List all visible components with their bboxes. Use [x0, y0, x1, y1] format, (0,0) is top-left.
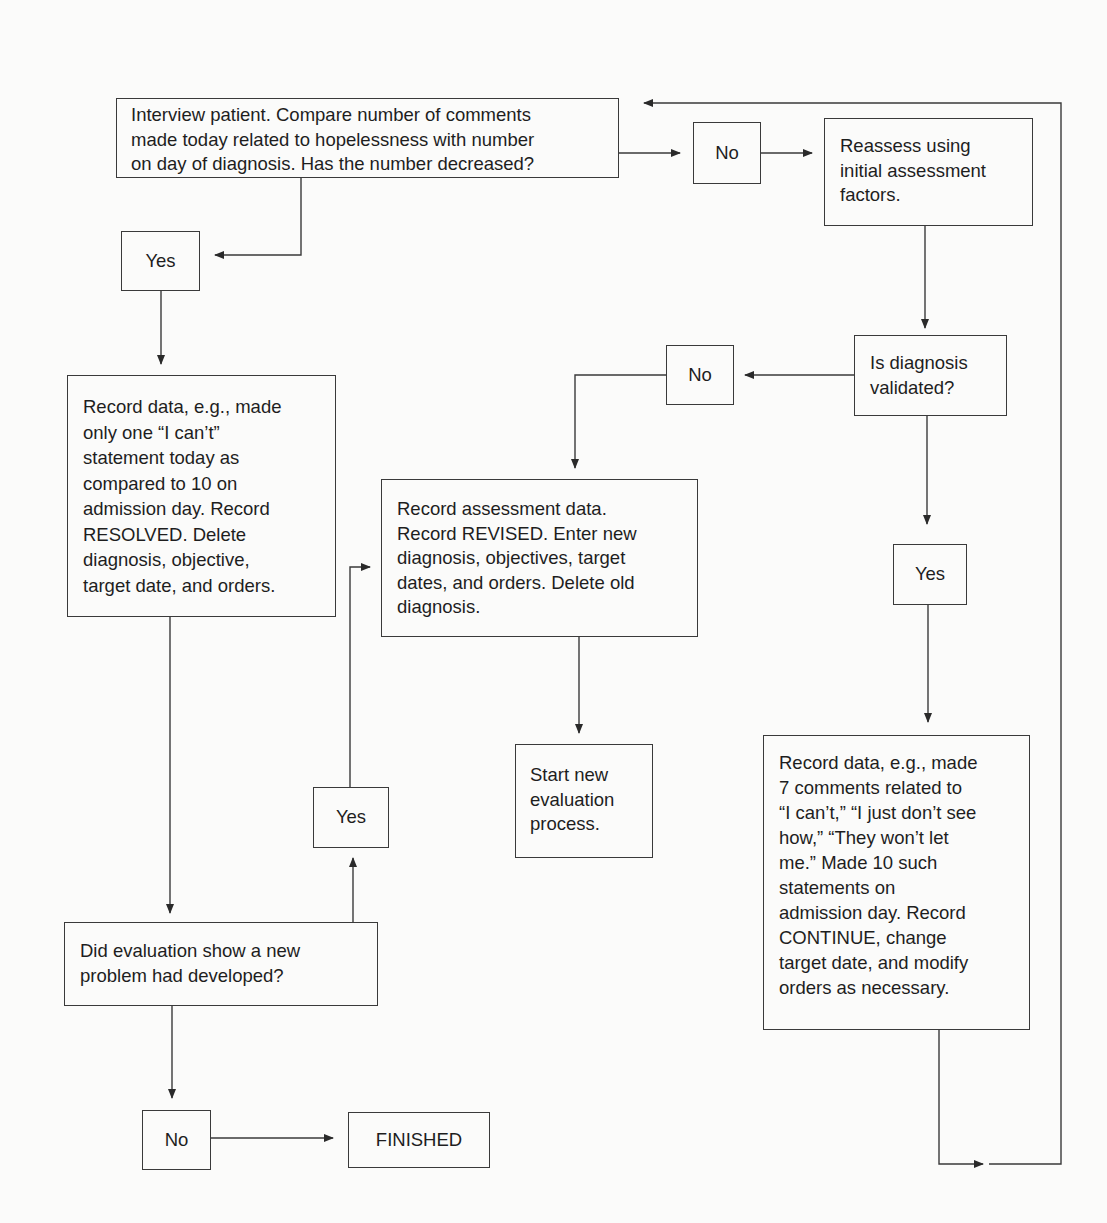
node-text-line: Record REVISED. Enter new: [397, 522, 697, 547]
node-text-line: statements on: [779, 875, 1029, 900]
edge-record-continue-to-loop: [939, 1029, 983, 1164]
node-no-new-problem: No: [142, 1110, 211, 1170]
node-text-line: target date, and modify: [779, 950, 1029, 975]
node-text-line: made today related to hopelessness with …: [131, 128, 618, 153]
node-yes-validated: Yes: [893, 544, 967, 605]
node-text-line: Record data, e.g., made: [83, 394, 335, 420]
node-no-validated: No: [666, 345, 734, 405]
node-label: No: [165, 1128, 189, 1153]
node-new-problem: Did evaluation show a new problem had de…: [64, 922, 378, 1006]
node-interview: Interview patient. Compare number of com…: [116, 98, 619, 178]
node-label: Yes: [336, 805, 366, 830]
node-text-line: admission day. Record: [779, 900, 1029, 925]
node-text-line: diagnosis, objectives, target: [397, 546, 697, 571]
node-label: Yes: [145, 249, 175, 274]
node-text-line: target date, and orders.: [83, 573, 335, 599]
node-text-line: CONTINUE, change: [779, 925, 1029, 950]
node-text-line: admission day. Record: [83, 496, 335, 522]
node-text-line: Record assessment data.: [397, 497, 697, 522]
node-text-line: compared to 10 on: [83, 471, 335, 497]
node-text-line: problem had developed?: [80, 964, 377, 989]
node-text-line: evaluation: [530, 788, 652, 813]
node-text-line: Did evaluation show a new: [80, 939, 377, 964]
node-text-line: diagnosis.: [397, 595, 697, 620]
node-text-line: process.: [530, 812, 652, 837]
node-yes-new-problem: Yes: [313, 787, 389, 848]
node-yes-decreased: Yes: [121, 231, 200, 291]
node-validated: Is diagnosis validated?: [854, 335, 1007, 416]
node-label: Yes: [915, 562, 945, 587]
node-text-line: me.” Made 10 such: [779, 850, 1029, 875]
node-reassess: Reassess using initial assessment factor…: [824, 118, 1033, 226]
edge-yes-to-record-revised: [350, 567, 370, 787]
node-start-new-evaluation: Start new evaluation process.: [515, 744, 653, 858]
node-text-line: statement today as: [83, 445, 335, 471]
node-label: No: [688, 363, 712, 388]
node-text-line: validated?: [870, 376, 1006, 401]
node-record-continue: Record data, e.g., made 7 comments relat…: [763, 735, 1030, 1030]
node-text-line: “I can’t,” “I just don’t see: [779, 800, 1029, 825]
node-text-line: diagnosis, objective,: [83, 547, 335, 573]
node-text-line: on day of diagnosis. Has the number decr…: [131, 152, 618, 177]
node-record-revised: Record assessment data. Record REVISED. …: [381, 479, 698, 637]
node-text-line: dates, and orders. Delete old: [397, 571, 697, 596]
node-no-decreased: No: [693, 122, 761, 184]
node-label: FINISHED: [376, 1128, 462, 1153]
node-text-line: Start new: [530, 763, 652, 788]
edge-interview-to-yes: [215, 177, 301, 255]
node-text-line: RESOLVED. Delete: [83, 522, 335, 548]
node-text-line: factors.: [840, 183, 1032, 208]
node-text-line: Interview patient. Compare number of com…: [131, 103, 618, 128]
node-finished: FINISHED: [348, 1112, 490, 1168]
node-record-resolved: Record data, e.g., made only one “I can’…: [67, 375, 336, 617]
node-text-line: 7 comments related to: [779, 775, 1029, 800]
node-label: No: [715, 141, 739, 166]
node-text-line: Is diagnosis: [870, 351, 1006, 376]
node-text-line: orders as necessary.: [779, 975, 1029, 1000]
node-text-line: Reassess using: [840, 134, 1032, 159]
edge-no-to-record-revised: [575, 375, 666, 468]
node-text-line: initial assessment: [840, 159, 1032, 184]
node-text-line: only one “I can’t”: [83, 420, 335, 446]
node-text-line: how,” “They won’t let: [779, 825, 1029, 850]
node-text-line: Record data, e.g., made: [779, 750, 1029, 775]
